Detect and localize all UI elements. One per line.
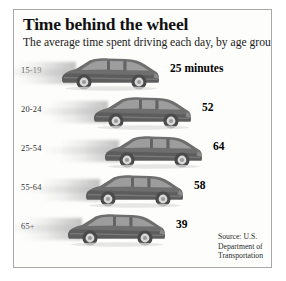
infographic-panel: Time behind the wheel The average time s… (13, 9, 272, 268)
car-pictogram (54, 53, 162, 92)
car-pictogram (60, 209, 168, 248)
row-value-label: 25 minutes (170, 62, 223, 74)
source-note: Source: U.S. Department of Transportatio… (218, 232, 263, 260)
car-side-icon (60, 209, 168, 248)
chart-row: 55-64 (14, 170, 272, 209)
car-side-icon (54, 53, 162, 92)
source-line-3: Transportation (218, 251, 263, 260)
chart-row: 25-54 (14, 131, 272, 170)
chart-rows: 15-19 (14, 53, 272, 248)
car-side-icon (86, 92, 194, 131)
row-value-label: 52 (202, 101, 214, 113)
car-side-icon (97, 131, 205, 170)
chart-row: 20-24 (14, 92, 272, 131)
row-category-label: 25-54 (21, 144, 42, 153)
car-pictogram (97, 131, 205, 170)
car-side-icon (78, 170, 186, 209)
car-pictogram (78, 170, 186, 209)
row-value-label: 39 (176, 218, 188, 230)
row-value-label: 58 (194, 179, 206, 191)
source-line-1: Source: U.S. (218, 232, 263, 241)
car-pictogram (86, 92, 194, 131)
page-title: Time behind the wheel (23, 14, 188, 35)
subtitle: The average time spent driving each day,… (23, 36, 272, 49)
chart-row: 15-19 (14, 53, 272, 92)
row-value-label: 64 (213, 140, 225, 152)
source-line-2: Department of (218, 242, 263, 251)
